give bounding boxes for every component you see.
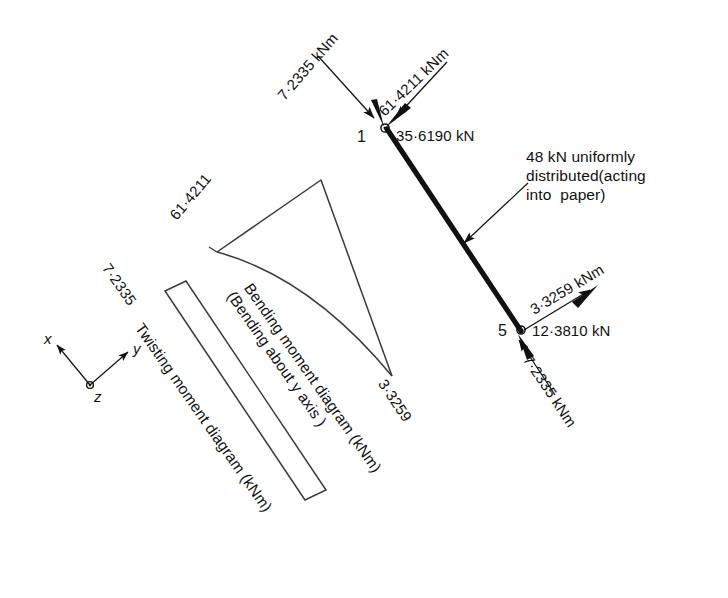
bending-moment-diagram-outline (217, 180, 392, 376)
udl-leader-line (464, 183, 528, 243)
node1-force-label: 35·6190 kN (396, 127, 475, 145)
axis-triad (57, 345, 128, 388)
figure-page: 7·2335 kNm 61·4211 kNm 1 35·6190 kN 48 k… (0, 0, 728, 598)
node5-force-label: 12·3810 kN (532, 322, 611, 340)
node-5-label: 5 (498, 322, 507, 341)
member-line (387, 129, 521, 331)
bending-moment-start-tick (209, 247, 217, 252)
node-1-label: 1 (357, 128, 366, 147)
node1-moment-left-arrow (318, 56, 384, 127)
udl-note-line1: 48 kN uniformly (526, 148, 635, 166)
diagram-canvas (0, 0, 728, 598)
axis-z-label: z (94, 388, 102, 406)
udl-note-line3: into paper) (526, 186, 606, 204)
udl-note-line2: distributed(acting (526, 167, 646, 185)
axis-x-label: x (44, 330, 52, 348)
axis-y-label: y (133, 340, 141, 358)
